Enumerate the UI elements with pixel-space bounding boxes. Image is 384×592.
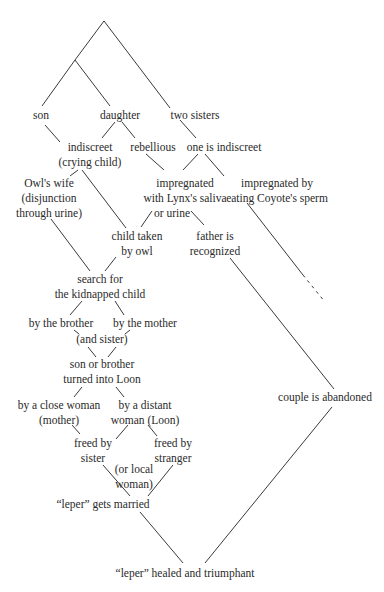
node-by-brother: by the brother	[29, 316, 94, 331]
node-by-mother: by the mother	[113, 316, 177, 331]
node-owls-wife-2: (disjunction	[22, 191, 77, 206]
node-couple-abandoned: couple is abandoned	[278, 390, 372, 405]
node-son-or-brother: son or brother	[70, 357, 135, 372]
node-turned-into-loon: turned into Loon	[63, 372, 140, 387]
node-one-is-indiscreet: one is indiscreet	[187, 140, 262, 155]
node-owls-wife: Owl's wife	[24, 176, 74, 191]
node-close-woman: by a close woman	[18, 398, 101, 413]
node-daughter: daughter	[100, 108, 140, 123]
node-leper-healed: “leper” healed and triumphant	[116, 566, 255, 581]
node-two-sisters: two sisters	[171, 108, 220, 123]
node-lynx-urine: or urine	[154, 206, 190, 221]
node-son: son	[33, 108, 49, 123]
node-lynx-saliva: with Lynx's saliva	[143, 191, 226, 206]
node-search-for: search for	[77, 272, 123, 287]
node-kidnapped-child: the kidnapped child	[55, 287, 146, 302]
node-close-woman-mother: (mother)	[39, 413, 79, 428]
node-stranger: stranger	[154, 451, 191, 466]
node-and-sister: (and sister)	[76, 332, 127, 347]
node-leper-married: “leper” gets married	[56, 497, 149, 512]
node-crying-child: (crying child)	[59, 155, 122, 170]
node-lynx-impregnated: impregnated	[156, 176, 213, 191]
node-coyote-sperm: eating Coyote's sperm	[226, 191, 328, 206]
node-or-local: (or local	[115, 462, 154, 477]
node-distant-woman-loon: woman (Loon)	[111, 413, 180, 428]
node-rebellious: rebellious	[130, 140, 175, 155]
node-indiscreet: indiscreet	[68, 140, 113, 155]
node-child-taken: child taken	[112, 229, 163, 244]
node-freed-by-stranger: freed by	[154, 436, 192, 451]
node-distant-woman: by a distant	[118, 398, 171, 413]
node-by-owl: by owl	[121, 244, 153, 259]
myth-transformation-diagram: son daughter two sisters indiscreet (cry…	[0, 0, 384, 592]
node-local-woman: woman)	[115, 477, 153, 492]
node-coyote-impregnated: impregnated by	[241, 176, 313, 191]
node-recognized: recognized	[190, 244, 240, 259]
node-freed-by-sister: freed by	[74, 436, 112, 451]
node-owls-wife-3: through urine)	[16, 206, 82, 221]
node-sister: sister	[81, 451, 105, 466]
node-father-is: father is	[196, 229, 233, 244]
